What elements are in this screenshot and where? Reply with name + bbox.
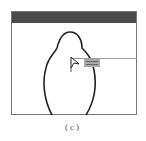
- figure-caption: (c): [0, 122, 146, 132]
- arrow-cursor-icon: [0, 0, 146, 141]
